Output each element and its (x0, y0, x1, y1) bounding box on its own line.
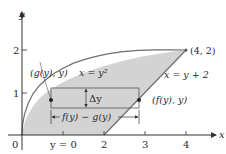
strip-width-label: f(y) − g(y) (61, 111, 111, 122)
region-between-curves-diagram: y x 0 y = 0 2 3 4 1 2 x = y² x = y + 2 (… (0, 0, 226, 154)
left-point-dot (49, 98, 53, 102)
y-tick-label-2: 2 (13, 45, 19, 56)
x-axis-label: x (219, 129, 225, 140)
shaded-region (22, 50, 186, 135)
x-tick-label-2: 2 (101, 139, 107, 150)
line-label: x = y + 2 (164, 69, 209, 80)
y-axis-label: y (18, 9, 25, 20)
y-tick-label-1: 1 (13, 88, 19, 99)
origin-label: 0 (12, 139, 18, 150)
right-point-label: (f(y), y) (152, 94, 187, 105)
parabola-label: x = y² (79, 67, 108, 78)
intersection-dot (185, 49, 188, 52)
left-point-label: (g(y), y) (30, 67, 68, 78)
y-equals-zero-label: y = 0 (49, 139, 77, 150)
delta-y-label: Δy (89, 93, 102, 104)
intersection-label: (4, 2) (190, 45, 216, 56)
right-point-dot (137, 98, 141, 102)
diagram-canvas: y x 0 y = 0 2 3 4 1 2 x = y² x = y + 2 (… (0, 0, 226, 154)
x-tick-label-3: 3 (142, 139, 148, 150)
x-tick-label-4: 4 (183, 139, 189, 150)
